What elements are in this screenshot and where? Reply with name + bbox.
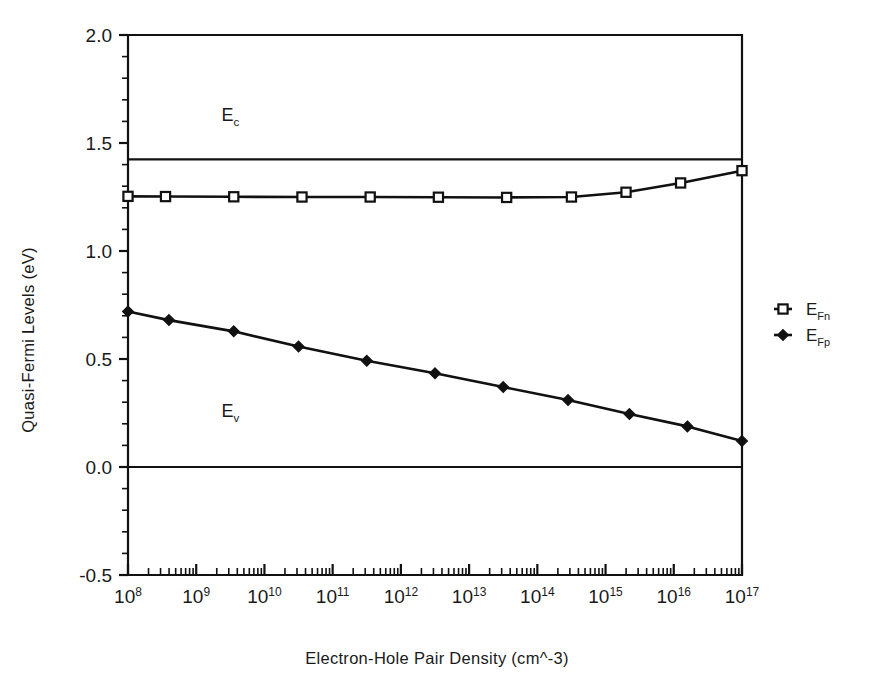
data-point-e_fn bbox=[297, 192, 306, 201]
y-tick-label: 0.5 bbox=[86, 349, 112, 370]
data-point-e_fn bbox=[676, 178, 685, 187]
y-axis-title: Quasi-Fermi Levels (eV) bbox=[19, 247, 37, 433]
data-point-e_fn bbox=[123, 192, 132, 201]
data-point-e_fn bbox=[502, 193, 511, 202]
data-point-e_fn bbox=[161, 192, 170, 201]
data-point-e_fn bbox=[434, 193, 443, 202]
data-point-e_fn bbox=[567, 192, 576, 201]
quasi-fermi-levels-chart: 2.01.51.00.50.0-0.5 10810910101011101210… bbox=[0, 0, 887, 678]
data-point-e_fn bbox=[229, 192, 238, 201]
chart-background bbox=[0, 0, 887, 678]
y-tick-label: 2.0 bbox=[86, 25, 112, 46]
y-tick-label: 1.0 bbox=[86, 241, 112, 262]
y-tick-label: 0.0 bbox=[86, 457, 112, 478]
data-point-e_fn bbox=[621, 188, 630, 197]
x-axis-title: Electron-Hole Pair Density (cm^-3) bbox=[305, 649, 569, 667]
legend-marker bbox=[778, 304, 787, 313]
data-point-e_fn bbox=[366, 192, 375, 201]
data-point-e_fn bbox=[737, 166, 746, 175]
y-tick-label: 1.5 bbox=[86, 133, 112, 154]
y-tick-label: -0.5 bbox=[79, 565, 112, 586]
chart-figure: 2.01.51.00.50.0-0.5 10810910101011101210… bbox=[0, 0, 887, 678]
